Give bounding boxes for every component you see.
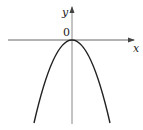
parabola-diagram: y x 0 [0, 0, 143, 130]
x-axis-label: x [133, 42, 140, 55]
y-axis-label: y [61, 6, 69, 19]
origin-label: 0 [63, 26, 70, 39]
